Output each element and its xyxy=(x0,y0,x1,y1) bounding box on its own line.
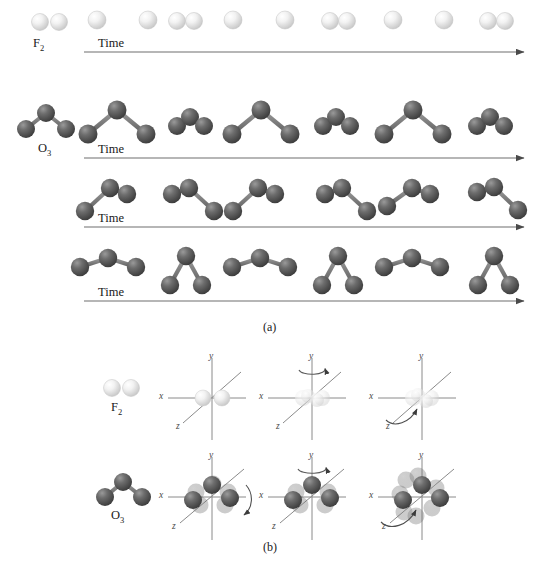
row-o3-symmetric-stretch xyxy=(17,101,524,159)
axis-label-x: x xyxy=(159,391,163,401)
axis-label-x: x xyxy=(259,490,263,500)
axis-label-z: z xyxy=(276,421,280,431)
mol-frame xyxy=(384,11,453,29)
mol-frame xyxy=(316,179,376,220)
time-label-row2: Time xyxy=(98,142,124,157)
time-label-row3: Time xyxy=(98,211,124,226)
mol-frame xyxy=(468,178,527,219)
mol-frame xyxy=(469,247,519,294)
mol-frame xyxy=(223,249,297,276)
axis-label-x: x xyxy=(369,391,373,401)
panel-b-o3-axes-3 xyxy=(378,457,456,540)
mol-frame xyxy=(314,108,359,135)
axis-label-z: z xyxy=(386,421,390,431)
label-f2-panel-a: F2 xyxy=(33,36,44,53)
mol-frame xyxy=(79,101,156,144)
rotation-arrow-x xyxy=(244,485,251,515)
axis-label-x: x xyxy=(259,391,263,401)
mol-frame xyxy=(223,101,300,144)
caption-panel-a: (a) xyxy=(263,320,276,335)
mol-frame xyxy=(169,13,203,30)
mol-frame xyxy=(224,179,284,220)
mol-frame xyxy=(17,104,75,138)
time-label-row1: Time xyxy=(98,36,124,51)
mol-frame xyxy=(468,108,513,135)
time-label-row4: Time xyxy=(98,285,124,300)
axis-label-z: z xyxy=(382,521,386,531)
axis-label-y: y xyxy=(419,450,423,460)
row-o3-asymmetric-stretch xyxy=(76,178,527,227)
mol-frame xyxy=(32,14,68,31)
mol-frame xyxy=(224,11,294,29)
axis-label-y: y xyxy=(209,450,213,460)
axis-label-x: x xyxy=(369,490,373,500)
mol-frame xyxy=(322,13,356,30)
figure-canvas xyxy=(0,0,542,562)
label-o3-panel-a: O3 xyxy=(38,141,51,158)
axis-label-z: z xyxy=(176,421,180,431)
axis-label-z: z xyxy=(172,521,176,531)
panel-b-f2-reference xyxy=(104,380,140,397)
row-o3-bend xyxy=(71,247,524,301)
mol-frame xyxy=(480,13,514,30)
mol-frame xyxy=(88,11,157,29)
mol-frame xyxy=(375,249,449,276)
mol-frame xyxy=(313,247,363,294)
axis-label-y: y xyxy=(419,351,423,361)
caption-panel-b: (b) xyxy=(263,540,277,555)
axis-label-y: y xyxy=(309,450,313,460)
axis-label-z: z xyxy=(272,521,276,531)
axis-label-y: y xyxy=(209,351,213,361)
mol-frame xyxy=(71,249,145,276)
rotation-arrow-z xyxy=(386,409,417,424)
panel-b-o3-axes-2 xyxy=(268,457,346,540)
panel-b-o3-axes-1 xyxy=(168,457,251,540)
axis-label-x: x xyxy=(159,490,163,500)
axis-label-y: y xyxy=(309,351,313,361)
label-f2-panel-b: F2 xyxy=(111,400,122,417)
mol-frame xyxy=(163,179,223,220)
mol-frame xyxy=(168,108,213,135)
mol-frame xyxy=(375,101,452,144)
panel-b-o3-reference xyxy=(96,473,151,506)
molecular-motion-figure: F2 O3 Time Time Time Time (a) (b) F2 O3 … xyxy=(0,0,542,562)
label-o3-panel-b: O3 xyxy=(111,508,124,525)
mol-frame xyxy=(378,179,439,215)
mol-frame xyxy=(161,247,211,294)
